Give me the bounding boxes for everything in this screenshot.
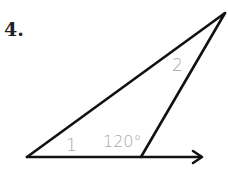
angle-2-label: 2 [172,55,183,75]
triangle-side-right [141,13,225,157]
triangle-diagram: 1 2 120° [0,0,228,173]
exterior-angle-label: 120° [103,132,142,151]
angle-1-label: 1 [66,135,77,155]
